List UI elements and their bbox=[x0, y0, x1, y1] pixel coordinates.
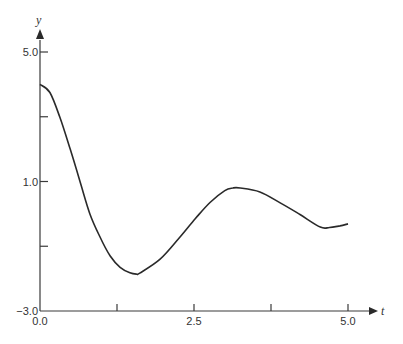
y-axis-arrow-icon bbox=[36, 29, 44, 39]
series-line bbox=[40, 84, 348, 274]
x-tick-label: 2.5 bbox=[186, 315, 201, 327]
y-tick-label: −3.0 bbox=[16, 305, 38, 317]
ticks bbox=[40, 52, 348, 311]
x-axis-label: t bbox=[381, 304, 385, 318]
chart: 0.02.55.0−3.01.05.0 t y bbox=[0, 0, 403, 344]
x-axis-arrow-icon bbox=[369, 307, 378, 315]
series bbox=[40, 84, 348, 274]
y-tick-label: 1.0 bbox=[23, 176, 38, 188]
x-tick-label: 5.0 bbox=[340, 315, 355, 327]
tick-labels: 0.02.55.0−3.01.05.0 bbox=[16, 46, 355, 327]
y-tick-label: 5.0 bbox=[23, 46, 38, 58]
axes bbox=[36, 29, 378, 315]
y-axis-label: y bbox=[35, 13, 42, 27]
